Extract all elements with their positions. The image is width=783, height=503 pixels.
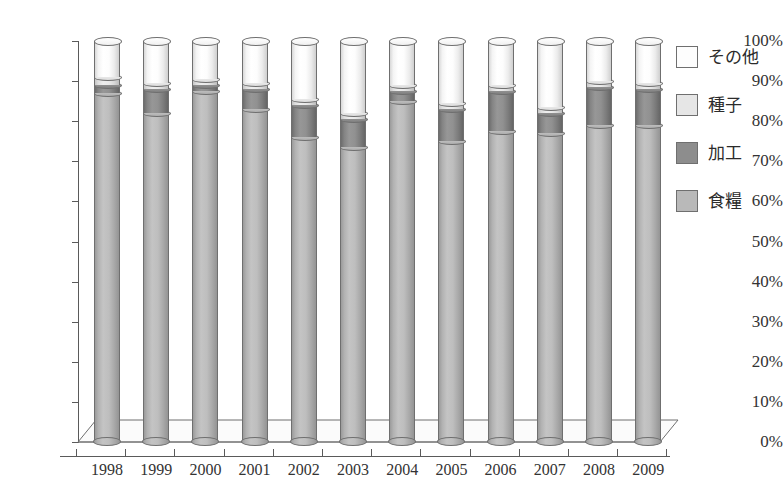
cylinder-bottom-ellipse bbox=[241, 437, 269, 446]
bar-segment-food[interactable] bbox=[192, 91, 218, 442]
bar-segment-food[interactable] bbox=[389, 101, 415, 442]
y-axis-label: 30% bbox=[719, 313, 783, 330]
legend-swatch-food bbox=[676, 190, 698, 212]
cylinder-top-ellipse bbox=[242, 37, 270, 46]
bar-segment-processing[interactable] bbox=[438, 109, 464, 141]
bar-segment-food[interactable] bbox=[340, 147, 366, 442]
bar-1999[interactable] bbox=[143, 41, 169, 442]
legend-item-legend-swatch-food[interactable]: 食糧 bbox=[676, 190, 742, 212]
bar-segment-processing[interactable] bbox=[143, 89, 169, 113]
bar-segment-seed[interactable] bbox=[291, 99, 317, 105]
x-axis-tick bbox=[617, 449, 618, 457]
x-axis-label-2006: 2006 bbox=[473, 461, 529, 479]
bar-segment-seed[interactable] bbox=[537, 107, 563, 113]
stacked-cylinder-chart: 0%10%20%30%40%50%60%70%80%90%100% 199819… bbox=[0, 0, 783, 503]
legend-item-label: 種子 bbox=[708, 96, 742, 115]
x-axis-tick bbox=[125, 449, 126, 457]
bar-2004[interactable] bbox=[389, 41, 415, 442]
bar-2007[interactable] bbox=[537, 41, 563, 442]
cylinder-top-ellipse bbox=[340, 37, 368, 46]
bar-segment-other[interactable] bbox=[389, 41, 415, 85]
bar-segment-food[interactable] bbox=[438, 141, 464, 442]
bar-segment-other[interactable] bbox=[192, 41, 218, 79]
bar-segment-other[interactable] bbox=[586, 41, 612, 81]
bar-2008[interactable] bbox=[586, 41, 612, 442]
legend-item-label: 加工 bbox=[708, 144, 742, 163]
legend-item-legend-swatch-seed[interactable]: 種子 bbox=[676, 94, 742, 116]
bar-segment-processing[interactable] bbox=[586, 87, 612, 125]
bar-segment-processing[interactable] bbox=[635, 89, 661, 125]
cylinder-bottom-ellipse bbox=[487, 437, 515, 446]
bar-segment-processing[interactable] bbox=[242, 89, 268, 109]
x-axis-label-2002: 2002 bbox=[276, 461, 332, 479]
bar-1998[interactable] bbox=[94, 41, 120, 442]
bar-segment-seed[interactable] bbox=[192, 79, 218, 85]
bar-segment-seed[interactable] bbox=[488, 85, 514, 91]
bar-segment-other[interactable] bbox=[635, 41, 661, 83]
cylinder-top-ellipse bbox=[438, 37, 466, 46]
bar-2000[interactable] bbox=[192, 41, 218, 442]
bar-segment-other[interactable] bbox=[340, 41, 366, 113]
bar-segment-food[interactable] bbox=[586, 125, 612, 442]
cylinder-bottom-ellipse bbox=[142, 437, 170, 446]
bar-segment-processing[interactable] bbox=[537, 113, 563, 133]
bar-segment-seed[interactable] bbox=[438, 103, 464, 109]
bar-segment-other[interactable] bbox=[438, 41, 464, 103]
bar-segment-food[interactable] bbox=[635, 125, 661, 442]
bar-2002[interactable] bbox=[291, 41, 317, 442]
bar-segment-food[interactable] bbox=[242, 109, 268, 442]
y-axis-label: 50% bbox=[719, 233, 783, 250]
legend-item-label: 食糧 bbox=[708, 192, 742, 211]
bar-segment-processing[interactable] bbox=[488, 91, 514, 131]
x-axis-label-2008: 2008 bbox=[571, 461, 627, 479]
bar-segment-processing[interactable] bbox=[340, 119, 366, 147]
bar-segment-seed[interactable] bbox=[586, 81, 612, 87]
bar-segment-other[interactable] bbox=[488, 41, 514, 85]
x-axis-tick bbox=[76, 449, 77, 457]
cylinder-bottom-ellipse bbox=[388, 437, 416, 446]
x-axis-label-2009: 2009 bbox=[620, 461, 676, 479]
bar-segment-food[interactable] bbox=[143, 113, 169, 442]
x-axis-tick bbox=[568, 449, 569, 457]
y-axis-label: 90% bbox=[719, 72, 783, 89]
bar-2005[interactable] bbox=[438, 41, 464, 442]
x-axis-label-2001: 2001 bbox=[227, 461, 283, 479]
bar-segment-seed[interactable] bbox=[635, 83, 661, 89]
bar-2003[interactable] bbox=[340, 41, 366, 442]
bar-segment-other[interactable] bbox=[291, 41, 317, 99]
legend-item-legend-swatch-other[interactable]: その他 bbox=[676, 46, 759, 68]
x-axis-tick bbox=[224, 449, 225, 457]
bar-segment-seed[interactable] bbox=[94, 77, 120, 85]
cylinder-top-ellipse bbox=[192, 37, 220, 46]
x-axis-tick bbox=[470, 449, 471, 457]
x-axis-tick bbox=[174, 449, 175, 457]
bar-segment-other[interactable] bbox=[94, 41, 120, 77]
bar-segment-food[interactable] bbox=[291, 137, 317, 442]
x-axis-label-2004: 2004 bbox=[374, 461, 430, 479]
x-axis-label-1999: 1999 bbox=[128, 461, 184, 479]
y-axis-label: 10% bbox=[719, 393, 783, 410]
bar-2006[interactable] bbox=[488, 41, 514, 442]
bar-segment-other[interactable] bbox=[537, 41, 563, 107]
legend-item-legend-swatch-processing[interactable]: 加工 bbox=[676, 142, 742, 164]
bar-segment-seed[interactable] bbox=[340, 113, 366, 119]
bar-segment-processing[interactable] bbox=[389, 91, 415, 101]
bar-2009[interactable] bbox=[635, 41, 661, 442]
bar-segment-food[interactable] bbox=[537, 133, 563, 442]
bar-segment-other[interactable] bbox=[242, 41, 268, 83]
bar-segment-seed[interactable] bbox=[143, 83, 169, 89]
y-axis-label: 40% bbox=[719, 273, 783, 290]
cylinder-top-ellipse bbox=[586, 37, 614, 46]
bar-segment-processing[interactable] bbox=[291, 105, 317, 137]
bar-segment-seed[interactable] bbox=[389, 85, 415, 91]
cylinder-bottom-ellipse bbox=[536, 437, 564, 446]
bar-segment-processing[interactable] bbox=[94, 85, 120, 93]
bar-segment-other[interactable] bbox=[143, 41, 169, 83]
bar-segment-food[interactable] bbox=[94, 93, 120, 442]
bar-segment-food[interactable] bbox=[488, 131, 514, 442]
cylinder-top-ellipse bbox=[291, 37, 319, 46]
bar-segment-seed[interactable] bbox=[242, 83, 268, 89]
bar-segment-processing[interactable] bbox=[192, 85, 218, 91]
cylinder-top-ellipse bbox=[635, 37, 663, 46]
bar-2001[interactable] bbox=[242, 41, 268, 442]
